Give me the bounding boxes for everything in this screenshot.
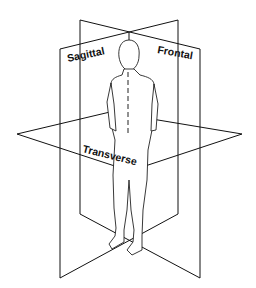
label-sagittal: Sagittal [66, 44, 106, 64]
anatomical-planes-diagram: Sagittal Frontal Transverse [0, 0, 256, 288]
human-figure [107, 40, 158, 255]
